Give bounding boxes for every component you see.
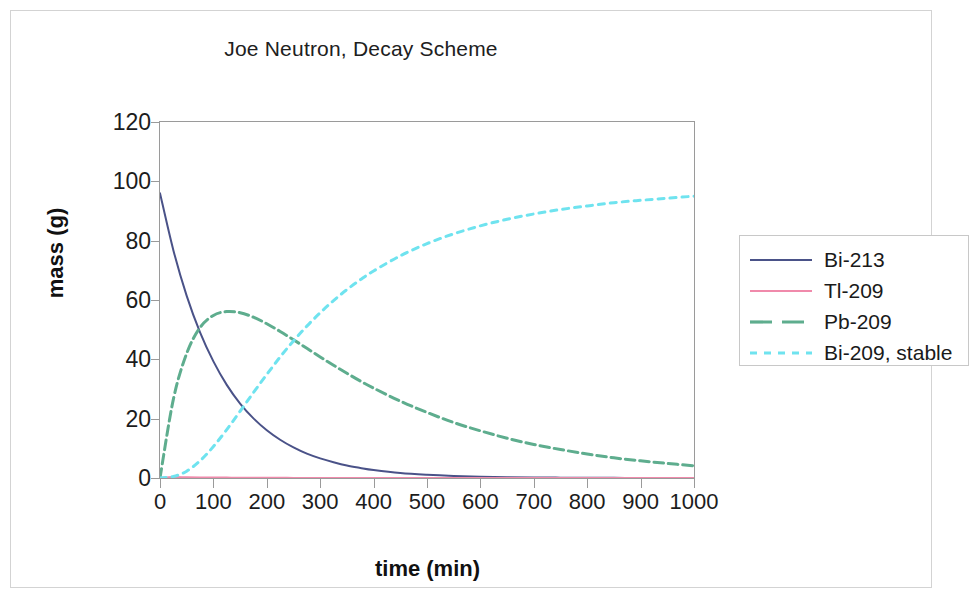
y-axis-tick-labels: 020406080100120 — [89, 121, 151, 479]
chart-title: Joe Neutron, Decay Scheme — [11, 37, 711, 61]
x-axis-tick-label: 1000 — [654, 491, 734, 513]
series-line-tl-209 — [160, 477, 694, 478]
y-axis-tick-label: 100 — [89, 170, 151, 193]
y-axis-tick-label: 80 — [89, 229, 151, 252]
x-axis-tick-mark — [587, 479, 588, 488]
legend-item[interactable]: Bi-213 — [740, 244, 968, 275]
x-axis-tick-mark — [374, 479, 375, 488]
legend-label: Bi-209, stable — [824, 342, 952, 363]
series-line-bi-213 — [160, 193, 694, 478]
x-axis-tick-mark — [267, 479, 268, 488]
y-axis-tick-label: 120 — [89, 111, 151, 134]
y-axis-tick-label: 20 — [89, 407, 151, 430]
legend-label: Bi-213 — [824, 249, 885, 270]
plot-area — [159, 121, 695, 479]
series-line-bi-209-stable — [160, 196, 694, 478]
y-axis-tick-label: 40 — [89, 348, 151, 371]
chart-legend: Bi-213Tl-209Pb-209Bi-209, stable — [739, 235, 969, 366]
x-axis-tick-mark — [694, 479, 695, 488]
x-axis-tick-mark — [641, 479, 642, 488]
y-axis-title: mass (g) — [43, 183, 69, 323]
x-axis-tick-mark — [320, 479, 321, 488]
legend-swatch-tl-209 — [750, 284, 812, 298]
y-axis-tick-label: 0 — [89, 467, 151, 490]
x-axis-tick-mark — [160, 479, 161, 488]
legend-label: Pb-209 — [824, 311, 892, 332]
legend-item[interactable]: Bi-209, stable — [740, 337, 968, 368]
x-axis-tick-mark — [480, 479, 481, 488]
x-axis-tick-labels: 01002003004005006007008009001000 — [159, 491, 696, 521]
x-axis-title: time (min) — [159, 556, 696, 582]
series-line-pb-209 — [160, 311, 694, 478]
legend-item[interactable]: Tl-209 — [740, 275, 968, 306]
y-axis-tick-label: 60 — [89, 289, 151, 312]
x-axis-tick-marks — [159, 479, 696, 488]
legend-swatch-bi-209-stable — [750, 346, 812, 360]
legend-swatch-bi-213 — [750, 253, 812, 267]
x-axis-tick-mark — [213, 479, 214, 488]
x-axis-tick-mark — [427, 479, 428, 488]
legend-label: Tl-209 — [824, 280, 884, 301]
legend-item[interactable]: Pb-209 — [740, 306, 968, 337]
legend-swatch-pb-209 — [750, 315, 812, 329]
x-axis-tick-mark — [534, 479, 535, 488]
chart-frame: Joe Neutron, Decay Scheme mass (g) 02040… — [10, 10, 932, 588]
plot-series-svg — [160, 122, 694, 478]
